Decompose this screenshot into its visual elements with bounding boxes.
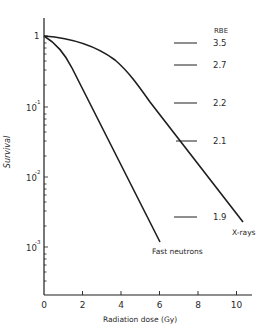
- y-tick-label: 1: [34, 31, 39, 41]
- y-tick-label: 10 -3: [26, 239, 41, 253]
- rbe-value: 2.2: [213, 98, 227, 108]
- y-axis-label: Survival: [3, 135, 12, 168]
- y-tick-label: 10 -1: [26, 99, 40, 113]
- rbe-value: 2.1: [213, 136, 227, 146]
- y-tick-label: 10 -2: [26, 169, 40, 183]
- x-tick-label: 4: [118, 300, 124, 310]
- fast-neutrons-curve: [44, 36, 160, 242]
- survival-curve-chart: 0 2 4 6 8 10 Radiation dose (Gy) 1 10 -1…: [0, 0, 274, 334]
- x-tick-label: 8: [195, 300, 201, 310]
- y-tick-labels: 1 10 -1 10 -2 10 -3: [26, 31, 41, 253]
- x-tick-label: 0: [41, 300, 47, 310]
- svg-text:-2: -2: [35, 169, 40, 175]
- rbe-value: 2.7: [213, 60, 227, 70]
- rbe-header: RBE: [214, 27, 228, 35]
- x-tick-label: 2: [80, 300, 86, 310]
- x-tick-label: 6: [157, 300, 163, 310]
- x-tick-label: 10: [231, 300, 243, 310]
- rbe-value: 3.5: [213, 38, 227, 48]
- svg-text:-1: -1: [35, 99, 40, 105]
- rbe-value: 1.9: [213, 212, 227, 222]
- x-tick-labels: 0 2 4 6 8 10: [41, 300, 242, 310]
- x-rays-label: X-rays: [232, 228, 256, 237]
- x-axis-label: Radiation dose (Gy): [103, 315, 177, 324]
- svg-text:-3: -3: [35, 239, 41, 245]
- fast-neutrons-label: Fast neutrons: [152, 247, 203, 256]
